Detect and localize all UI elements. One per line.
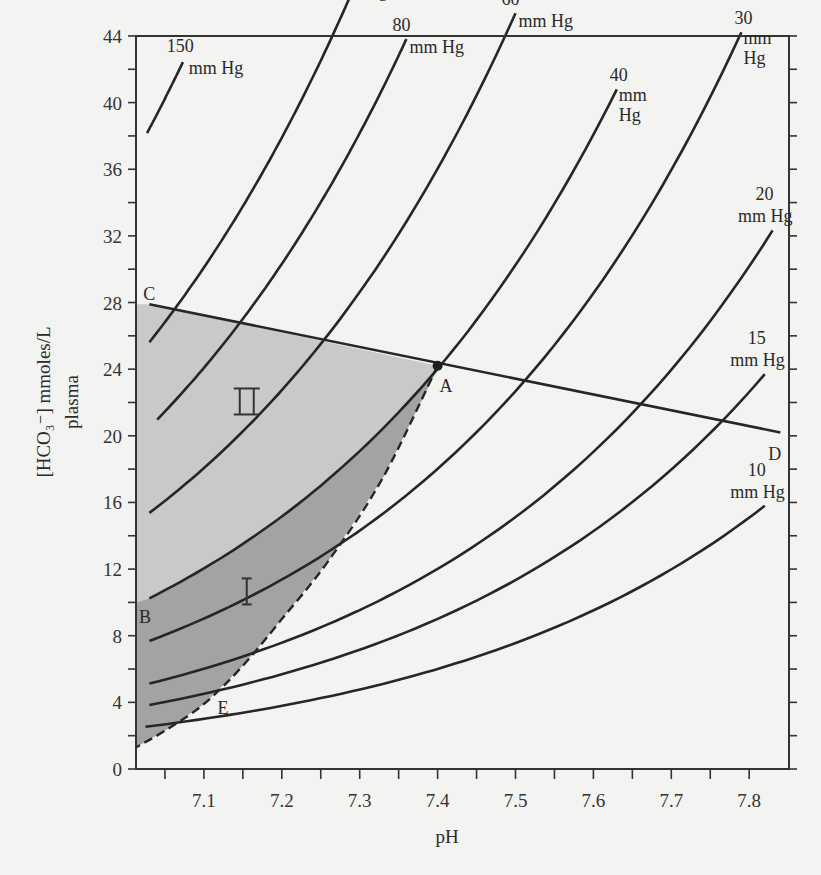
x-tick-label: 7.6	[582, 790, 606, 811]
y-tick-label: 24	[103, 359, 123, 380]
y-tick-label: 32	[103, 226, 122, 247]
isobar-label-40: mm	[619, 85, 647, 105]
point-A-marker	[433, 361, 443, 371]
isobar-label-80: mm Hg	[409, 37, 464, 57]
isobar-label-80: 80	[392, 15, 410, 35]
x-tick-label: 7.3	[348, 790, 372, 811]
isobar-label-150: 150	[167, 36, 194, 56]
y-tick-label: 12	[103, 559, 122, 580]
isobar-label-40: Hg	[619, 105, 641, 125]
y-axis-title-line2: plasma	[61, 375, 82, 429]
y-axis-title-line1: [HCO₃⁻] mmoles/L	[33, 326, 54, 477]
point-label-D: D	[768, 444, 781, 464]
isobar-label-60: mm Hg	[519, 11, 574, 31]
isobar-label-15: 15	[748, 328, 766, 348]
y-tick-label: 4	[113, 692, 123, 713]
isobar-label-60: 60	[502, 0, 520, 9]
x-tick-label: 7.7	[659, 790, 683, 811]
isobar-label-10: 10	[748, 460, 766, 480]
isobar-label-20: 20	[756, 184, 774, 204]
isobar-label-10: mm Hg	[730, 482, 785, 502]
y-tick-label: 8	[113, 626, 123, 647]
y-tick-label: 20	[103, 426, 122, 447]
y-tick-label: 40	[103, 93, 122, 114]
ph-bicarbonate-diagram: 0481216202428323640447.17.27.37.47.57.67…	[0, 0, 821, 875]
x-tick-label: 7.5	[504, 790, 528, 811]
point-label-C: C	[143, 284, 155, 304]
point-label-E: E	[217, 698, 228, 718]
isobar-label-20: mm Hg	[738, 206, 793, 226]
y-tick-label: 0	[113, 759, 123, 780]
isobar-label-30: 30	[734, 8, 752, 28]
y-tick-label: 28	[103, 293, 122, 314]
x-tick-label: 7.4	[426, 790, 450, 811]
y-tick-label: 36	[103, 159, 122, 180]
x-tick-label: 7.2	[270, 790, 294, 811]
isobar-label-30: Hg	[743, 48, 765, 68]
isobar-label-30: mm	[743, 28, 771, 48]
x-tick-label: 7.8	[737, 790, 761, 811]
point-label-A: A	[440, 376, 453, 396]
isobar-label-100: Hg	[366, 0, 388, 1]
x-tick-label: 7.1	[192, 790, 216, 811]
isobar-label-150: mm Hg	[189, 58, 244, 78]
isobar-label-15: mm Hg	[730, 350, 785, 370]
point-label-B: B	[139, 607, 151, 627]
y-tick-label: 16	[103, 492, 122, 513]
x-axis-title: pH	[435, 826, 459, 847]
isobar-150-mmhg	[147, 62, 183, 133]
isobar-label-40: 40	[610, 65, 628, 85]
y-tick-label: 44	[103, 26, 123, 47]
